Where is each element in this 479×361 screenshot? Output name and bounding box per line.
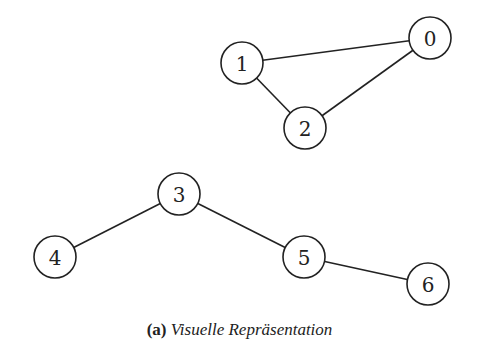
node-5: 5 (283, 236, 325, 278)
node-4: 4 (34, 236, 76, 278)
node-1: 1 (221, 42, 263, 84)
caption-text: Visuelle Repräsentation (171, 320, 333, 339)
nodes: 0123456 (34, 17, 451, 305)
node-label: 4 (49, 246, 62, 270)
node-6: 6 (407, 263, 449, 305)
caption-label: (a) (147, 320, 167, 339)
node-label: 6 (422, 273, 435, 297)
node-label: 0 (424, 27, 437, 51)
figure-caption: (a) Visuelle Repräsentation (0, 320, 479, 340)
node-0: 0 (409, 17, 451, 59)
node-label: 5 (298, 246, 311, 270)
node-label: 1 (236, 52, 249, 76)
node-2: 2 (284, 107, 326, 149)
graph-diagram: 0123456 (0, 0, 479, 361)
node-label: 2 (299, 117, 312, 141)
node-3: 3 (158, 173, 200, 215)
node-label: 3 (173, 183, 186, 207)
